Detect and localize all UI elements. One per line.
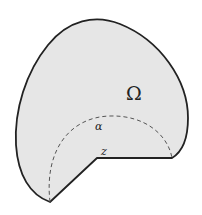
domain-diagram: Ω α z (0, 0, 202, 215)
region-omega-boundary (16, 19, 188, 202)
omega-label: Ω (126, 82, 142, 104)
z-label: z (100, 145, 107, 158)
alpha-label: α (95, 120, 103, 133)
